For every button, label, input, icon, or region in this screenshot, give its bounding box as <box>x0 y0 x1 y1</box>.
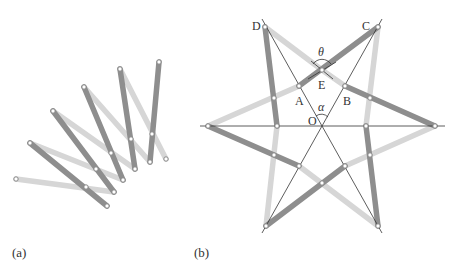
label-B: B <box>343 94 351 108</box>
label-A: A <box>295 94 304 108</box>
label-D: D <box>252 19 261 33</box>
label-theta: θ <box>318 45 324 59</box>
label-alpha: α <box>318 100 325 114</box>
label-O: O <box>308 114 317 128</box>
label-C: C <box>362 19 370 33</box>
caption-a: (a) <box>12 245 26 260</box>
panel-a-linkage <box>14 60 168 208</box>
panel-b-star-linkage: D C E A B O θ α <box>200 19 445 233</box>
joints-a <box>14 60 168 208</box>
light-bars <box>16 69 166 192</box>
caption-b: (b) <box>194 245 209 260</box>
figure: D C E A B O θ α (a) (b) <box>0 0 460 270</box>
label-E: E <box>318 78 325 92</box>
